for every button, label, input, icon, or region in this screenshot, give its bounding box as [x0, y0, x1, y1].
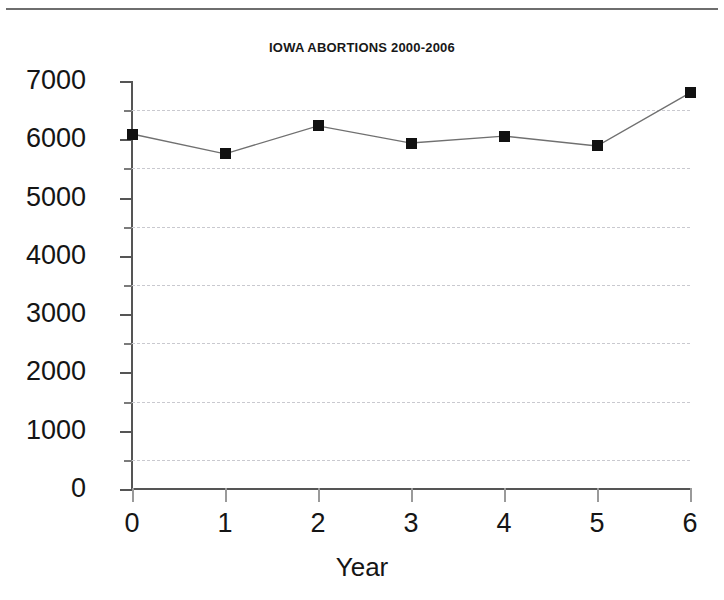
y-tick [120, 139, 132, 141]
data-point-marker [220, 148, 231, 159]
y-tick-minor [124, 285, 132, 287]
x-tick [318, 488, 320, 502]
x-tick [690, 488, 692, 502]
y-tick [120, 256, 132, 258]
chart-title: IOWA ABORTIONS 2000-2006 [0, 40, 724, 55]
y-tick-label: 6000 [0, 125, 86, 152]
y-tick-label: 3000 [0, 300, 86, 327]
page-top-rule [6, 8, 718, 10]
data-point-marker [499, 131, 510, 142]
y-tick [120, 81, 132, 83]
y-tick-minor [124, 460, 132, 462]
y-tick-label: 1000 [0, 417, 86, 444]
x-tick-label: 2 [288, 509, 348, 537]
y-tick-minor [124, 110, 132, 112]
x-axis-title: Year [0, 552, 724, 583]
y-tick-minor [124, 168, 132, 170]
x-tick-label: 4 [474, 509, 534, 537]
x-tick-label: 6 [660, 509, 720, 537]
y-tick-label: 5000 [0, 184, 86, 211]
x-tick-label: 0 [102, 509, 162, 537]
plot-area: 01000200030004000500060007000 0123456 [132, 81, 690, 489]
y-tick [120, 314, 132, 316]
y-tick [120, 489, 132, 491]
y-tick [120, 431, 132, 433]
y-tick-label: 2000 [0, 358, 86, 385]
x-tick-label: 3 [381, 509, 441, 537]
x-tick [132, 488, 134, 502]
x-tick [597, 488, 599, 502]
x-tick-label: 1 [195, 509, 255, 537]
y-tick-minor [124, 343, 132, 345]
data-point-marker [685, 87, 696, 98]
x-tick [411, 488, 413, 502]
y-tick-label: 0 [0, 475, 86, 502]
y-tick-label: 7000 [0, 67, 86, 94]
y-tick [120, 198, 132, 200]
y-tick-label: 4000 [0, 242, 86, 269]
y-tick [120, 372, 132, 374]
data-point-marker [406, 138, 417, 149]
y-tick-minor [124, 227, 132, 229]
data-point-marker [313, 120, 324, 131]
x-tick-label: 5 [567, 509, 627, 537]
y-tick-minor [124, 402, 132, 404]
x-tick [225, 488, 227, 502]
data-point-marker [592, 140, 603, 151]
chart-figure: IOWA ABORTIONS 2000-2006 010002000300040… [0, 0, 724, 600]
data-point-marker [127, 129, 138, 140]
x-tick [504, 488, 506, 502]
